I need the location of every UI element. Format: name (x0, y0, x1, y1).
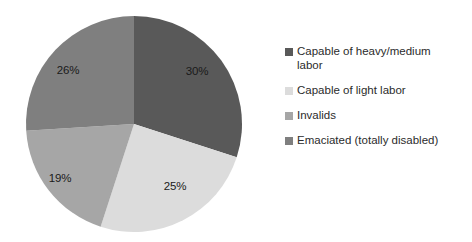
legend-item[interactable]: Capable of heavy/medium labor (285, 44, 467, 72)
pie-chart-svg (0, 0, 272, 242)
chart-legend: Capable of heavy/medium laborCapable of … (285, 44, 467, 158)
legend-color-swatch-icon (285, 87, 293, 95)
pie-slice-value-label: 25% (164, 180, 186, 192)
legend-item-label: Invalids (297, 108, 336, 122)
legend-item-label: Capable of light labor (297, 83, 406, 97)
pie-slices-group (26, 16, 242, 232)
pie-slice-value-label: 30% (186, 65, 208, 77)
pie-slice (26, 16, 134, 131)
legend-item[interactable]: Emaciated (totally disabled) (285, 133, 467, 147)
pie-slice-value-label: 26% (57, 64, 79, 76)
legend-color-swatch-icon (285, 137, 293, 145)
legend-color-swatch-icon (285, 48, 293, 56)
pie-slice-value-label: 19% (49, 172, 71, 184)
legend-item-label: Capable of heavy/medium labor (297, 44, 449, 72)
pie-chart-plot-area: 30%25%19%26% (0, 0, 272, 242)
legend-color-swatch-icon (285, 112, 293, 120)
legend-item[interactable]: Capable of light labor (285, 83, 467, 97)
legend-item-label: Emaciated (totally disabled) (297, 133, 438, 147)
pie-chart-figure: 30%25%19%26% Capable of heavy/medium lab… (0, 0, 472, 242)
legend-item[interactable]: Invalids (285, 108, 467, 122)
